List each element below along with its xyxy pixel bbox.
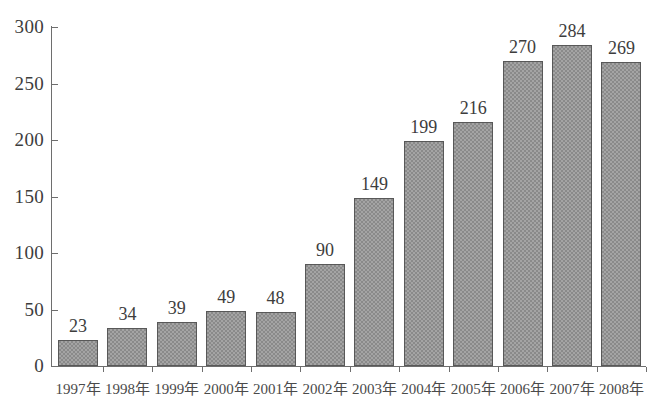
y-axis-tick-label: 300	[0, 17, 44, 36]
bar-chart: 050100150200250300 233439494890149199216…	[0, 0, 661, 411]
y-axis-tick-label: 50	[0, 300, 44, 319]
bar-value-label: 270	[487, 38, 559, 56]
bar-value-label: 149	[338, 175, 410, 193]
bar	[58, 340, 98, 366]
y-axis-tick-label: 250	[0, 74, 44, 93]
y-axis-tick	[52, 366, 58, 367]
y-axis-tick	[52, 140, 58, 141]
y-axis-tick-label: 100	[0, 243, 44, 262]
bar	[503, 61, 543, 366]
bar	[354, 198, 394, 366]
bar	[107, 328, 147, 366]
x-axis-tick	[547, 367, 548, 372]
x-axis-tick	[399, 367, 400, 372]
bar-value-label: 48	[240, 289, 312, 307]
x-axis-tick	[251, 367, 252, 372]
bar-value-label: 269	[585, 39, 657, 57]
x-axis-tick	[152, 367, 153, 372]
x-axis-line	[51, 366, 646, 367]
bar	[552, 45, 592, 366]
bar	[404, 141, 444, 366]
y-axis-tick-label: 200	[0, 130, 44, 149]
x-axis-tick	[498, 367, 499, 372]
bar	[601, 62, 641, 366]
x-axis-tick	[449, 367, 450, 372]
bar	[157, 322, 197, 366]
bar-value-label: 284	[536, 22, 608, 40]
bar-value-label: 90	[289, 241, 361, 259]
y-axis-tick	[52, 27, 58, 28]
y-axis-tick	[52, 84, 58, 85]
y-axis-tick-label: 0	[0, 356, 44, 375]
x-axis-tick	[202, 367, 203, 372]
bar	[453, 122, 493, 366]
bar	[305, 264, 345, 366]
bar	[256, 312, 296, 366]
x-axis-category-label: 2008年	[587, 381, 655, 398]
x-axis-tick	[103, 367, 104, 372]
y-axis-tick-label: 150	[0, 187, 44, 206]
y-axis-tick	[52, 310, 58, 311]
x-axis-tick	[646, 367, 647, 372]
x-axis-tick	[300, 367, 301, 372]
bar-value-label: 199	[388, 118, 460, 136]
x-axis-tick	[597, 367, 598, 372]
bar-value-label: 216	[437, 99, 509, 117]
x-axis-tick	[350, 367, 351, 372]
y-axis-tick	[52, 253, 58, 254]
bar	[206, 311, 246, 366]
y-axis-tick	[52, 197, 58, 198]
